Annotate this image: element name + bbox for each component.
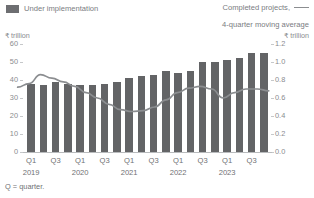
left-axis-tick-mark: [20, 134, 23, 135]
right-axis-unit: ₹ trillion: [284, 31, 309, 40]
left-axis-tick-label: 50: [0, 58, 18, 65]
right-axis-tick-label: 0.6: [275, 94, 285, 101]
right-axis-tick-mark: [271, 98, 274, 99]
legend-label-under-implementation: Under implementation: [24, 4, 98, 13]
chart-legend: Under implementation Completed projects,…: [0, 0, 314, 30]
x-axis-baseline: [23, 152, 272, 153]
right-axis-tick-mark: [271, 80, 274, 81]
x-axis-year-label: 2019: [15, 168, 47, 177]
left-axis-tick-mark: [20, 98, 23, 99]
right-axis-tick-label: 0.2: [275, 130, 285, 137]
left-axis-tick-label: 10: [0, 130, 18, 137]
line-path: [18, 75, 269, 112]
legend-swatch-line-icon: [294, 7, 309, 8]
left-axis-tick-label: 0: [0, 148, 18, 155]
x-axis-quarter-label: Q3: [238, 156, 266, 165]
line-series: [25, 44, 270, 152]
left-axis-tick-label: 40: [0, 76, 18, 83]
right-axis-tick-mark: [271, 44, 274, 45]
right-axis-tick-label: 0.8: [275, 76, 285, 83]
x-axis-year-label: 2020: [64, 168, 96, 177]
left-axis-tick-label: 60: [0, 40, 18, 47]
legend-swatch-bar-icon: [6, 5, 19, 13]
legend-item-completed-projects: Completed projects, 4-quarter moving ave…: [222, 3, 309, 31]
right-axis-tick-mark: [271, 134, 274, 135]
left-axis-tick-label: 20: [0, 112, 18, 119]
chart-container: Under implementation Completed projects,…: [0, 0, 314, 198]
right-axis-tick-label: 0.0: [275, 148, 285, 155]
legend-label-completed-projects-line1: Completed projects,: [222, 3, 290, 13]
right-axis-tick-mark: [271, 62, 274, 63]
right-axis-tick-mark: [271, 116, 274, 117]
left-axis-tick-mark: [20, 116, 23, 117]
chart-footnote: Q = quarter.: [5, 182, 44, 191]
x-axis-year-label: 2022: [162, 168, 194, 177]
left-axis-tick-mark: [20, 44, 23, 45]
x-axis-year-label: 2021: [113, 168, 145, 177]
left-axis-tick-label: 30: [0, 94, 18, 101]
left-axis-tick-mark: [20, 80, 23, 81]
left-axis-tick-mark: [20, 62, 23, 63]
plot-area: [25, 44, 270, 152]
right-axis-tick-label: 1.2: [275, 40, 285, 47]
x-axis-year-label: 2023: [211, 168, 243, 177]
legend-label-completed-projects-line2: 4-quarter moving average: [222, 20, 309, 29]
right-axis-tick-label: 1.0: [275, 58, 285, 65]
legend-item-under-implementation: Under implementation: [6, 4, 98, 13]
right-axis-tick-label: 0.4: [275, 112, 285, 119]
